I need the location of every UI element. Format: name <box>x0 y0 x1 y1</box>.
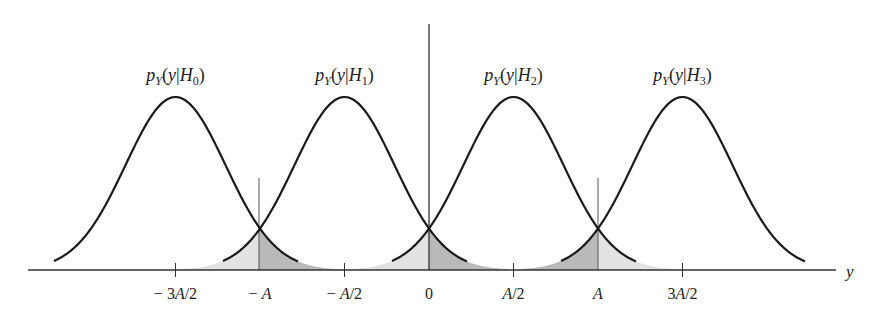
axis-label-y: y <box>844 262 854 281</box>
tick-label: A/2 <box>501 285 524 302</box>
error-region-right-p1 <box>598 229 678 270</box>
tick-label: 3A/2 <box>667 285 697 302</box>
curve-label-h3: pY(y|H3) <box>651 65 711 88</box>
error-region-left-m1 <box>179 230 259 270</box>
tick-label: − A <box>249 285 272 302</box>
error-region-left-0 <box>349 229 429 270</box>
error-region-left-p1 <box>518 229 598 270</box>
curve-label-h2: pY(y|H2) <box>482 65 542 88</box>
tick-label: − A/2 <box>327 285 362 302</box>
error-region-right-0 <box>429 229 509 270</box>
curve-labels: pY(y|H0)pY(y|H1)pY(y|H2)pY(y|H3) <box>144 65 711 88</box>
tick-label: − 3A/2 <box>154 285 197 302</box>
gaussian-decision-diagram: y − 3A/2− A− A/20A/2A3A/2 pY(y|H0)pY(y|H… <box>0 0 881 327</box>
curve-label-h1: pY(y|H1) <box>313 65 373 88</box>
curve-label-h0: pY(y|H0) <box>144 65 204 88</box>
tick-label: A <box>592 285 603 302</box>
tick-label: 0 <box>425 285 433 302</box>
error-region-right-m1 <box>259 227 339 270</box>
